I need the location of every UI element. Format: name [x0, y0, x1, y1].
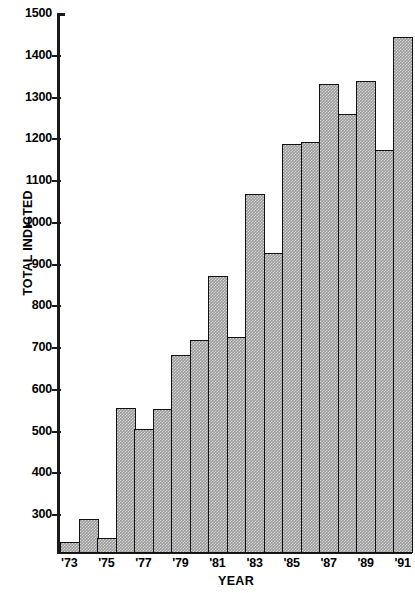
y-tick-mark — [52, 347, 61, 349]
bar-1983 — [245, 194, 265, 553]
y-tick-mark — [52, 97, 61, 99]
bar-1975 — [97, 538, 117, 553]
bar-1973 — [60, 542, 80, 553]
bar-1989 — [356, 81, 376, 553]
x-tick-label: '85 — [272, 556, 312, 570]
bar-1987 — [319, 84, 339, 553]
y-tick-label: 1500 — [14, 7, 52, 20]
bar-1981 — [208, 276, 228, 553]
y-tick-label: 700 — [14, 341, 52, 354]
bar-1988 — [338, 114, 358, 553]
bar-1990 — [375, 150, 395, 553]
x-tick-label: '77 — [123, 556, 163, 570]
y-tick-label: 1400 — [14, 49, 52, 62]
y-tick-mark — [52, 138, 61, 140]
bar-1978 — [153, 409, 173, 553]
y-tick-label: 1300 — [14, 91, 52, 104]
bar-1985 — [282, 144, 302, 553]
y-tick-label: 900 — [14, 258, 52, 271]
bar-1979 — [171, 355, 191, 553]
plot-area — [60, 14, 412, 553]
y-tick-label: 300 — [14, 508, 52, 521]
y-tick-mark — [52, 431, 61, 433]
bar-1974 — [79, 519, 99, 553]
y-tick-mark — [52, 264, 61, 266]
y-tick-label: 800 — [14, 299, 52, 312]
y-tick-mark — [52, 472, 61, 474]
x-axis-title: YEAR — [60, 574, 412, 588]
y-tick-label: 1000 — [14, 216, 52, 229]
y-tick-label: 600 — [14, 383, 52, 396]
y-tick-label: 1100 — [14, 174, 52, 187]
bar-1984 — [264, 253, 284, 553]
x-axis-tick-labels: '73'75'77'79'81'83'85'87'89'91 — [60, 556, 412, 576]
x-tick-label: '87 — [309, 556, 349, 570]
x-tick-label: '75 — [86, 556, 126, 570]
y-tick-mark — [57, 13, 65, 16]
y-tick-mark — [52, 180, 61, 182]
y-tick-mark — [52, 222, 61, 224]
bar-1977 — [134, 429, 154, 553]
bar-chart: TOTAL INDICTED 1500140013001200110010009… — [0, 0, 415, 593]
x-tick-label: '81 — [197, 556, 237, 570]
y-axis-tick-labels: 1500140013001200110010009008007006005004… — [0, 0, 52, 593]
x-tick-label: '89 — [346, 556, 386, 570]
x-tick-label: '91 — [383, 556, 415, 570]
bar-1982 — [227, 337, 247, 553]
y-tick-label: 500 — [14, 425, 52, 438]
bar-1986 — [301, 142, 321, 553]
bar-1976 — [116, 408, 136, 553]
y-tick-mark — [52, 514, 61, 516]
y-tick-label: 400 — [14, 466, 52, 479]
y-tick-mark — [52, 55, 61, 57]
bar-1991 — [393, 37, 413, 553]
y-tick-mark — [52, 305, 61, 307]
y-tick-mark — [52, 389, 61, 391]
bar-1980 — [190, 340, 210, 553]
x-tick-label: '73 — [49, 556, 89, 570]
x-tick-label: '79 — [160, 556, 200, 570]
y-tick-label: 1200 — [14, 132, 52, 145]
x-tick-label: '83 — [235, 556, 275, 570]
